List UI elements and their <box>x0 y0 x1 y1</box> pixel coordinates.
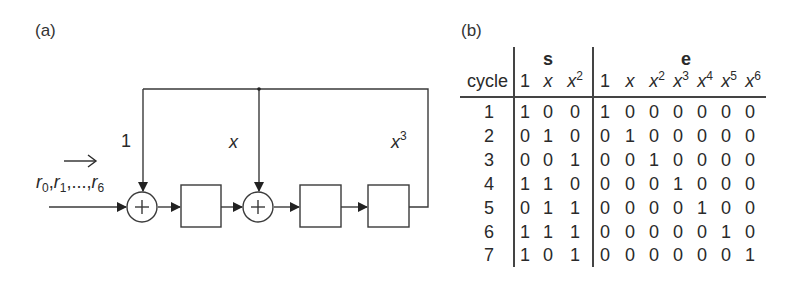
e-cell: 0 <box>721 174 731 194</box>
cycle-cell: 5 <box>484 198 494 218</box>
e-cell: 0 <box>625 174 635 194</box>
junction-dot <box>257 87 261 91</box>
cycle-cell: 2 <box>484 126 494 146</box>
s-cell: 1 <box>543 198 553 218</box>
s-cell: 1 <box>543 222 553 242</box>
s-cell: 1 <box>520 102 530 122</box>
feedback-line <box>143 89 428 207</box>
s-cell: 1 <box>570 222 580 242</box>
register-1 <box>181 185 221 227</box>
e-cell: 1 <box>600 102 610 122</box>
s-cell: 0 <box>570 102 580 122</box>
e-cell: 0 <box>673 126 683 146</box>
group-header-s: s <box>543 49 553 69</box>
group-header-e: e <box>681 49 691 69</box>
e-cell: 0 <box>600 126 610 146</box>
e-cell: 0 <box>625 198 635 218</box>
e-cell: 0 <box>625 102 635 122</box>
column-header-e-6: x6 <box>745 71 761 91</box>
cycle-cell: 7 <box>484 245 494 265</box>
e-cell: 0 <box>745 102 755 122</box>
cycle-cell: 1 <box>484 102 494 122</box>
s-cell: 1 <box>543 174 553 194</box>
e-cell: 1 <box>745 245 755 265</box>
e-cell: 0 <box>721 245 731 265</box>
tap-label-1: 1 <box>121 131 131 151</box>
e-cell: 0 <box>745 126 755 146</box>
e-cell: 0 <box>600 245 610 265</box>
tap-label-x3: x3 <box>390 129 407 152</box>
e-cell: 0 <box>600 150 610 170</box>
s-cell: 0 <box>520 126 530 146</box>
e-cell: 0 <box>673 102 683 122</box>
e-cell: 0 <box>625 245 635 265</box>
e-cell: 0 <box>673 222 683 242</box>
column-header-s-1: x <box>544 71 553 91</box>
e-cell: 0 <box>745 198 755 218</box>
e-cell: 0 <box>625 222 635 242</box>
cycle-cell: 3 <box>484 150 494 170</box>
s-cell: 1 <box>520 222 530 242</box>
s-cell: 0 <box>543 150 553 170</box>
e-cell: 0 <box>697 150 707 170</box>
e-cell: 0 <box>721 126 731 146</box>
column-header-e-4: x4 <box>697 71 713 91</box>
s-cell: 1 <box>570 198 580 218</box>
column-header-e-5: x5 <box>721 71 737 91</box>
e-cell: 1 <box>721 222 731 242</box>
table-divider-s <box>513 47 515 267</box>
s-cell: 1 <box>543 126 553 146</box>
e-cell: 0 <box>697 245 707 265</box>
column-header-e-2: x2 <box>649 71 665 91</box>
e-cell: 0 <box>745 174 755 194</box>
e-cell: 0 <box>721 102 731 122</box>
e-cell: 0 <box>600 222 610 242</box>
e-cell: 0 <box>600 174 610 194</box>
e-cell: 1 <box>697 198 707 218</box>
e-cell: 0 <box>721 150 731 170</box>
e-cell: 0 <box>673 198 683 218</box>
e-cell: 0 <box>697 174 707 194</box>
s-cell: 1 <box>570 150 580 170</box>
s-cell: 0 <box>543 245 553 265</box>
e-cell: 0 <box>649 198 659 218</box>
e-cell: 1 <box>625 126 635 146</box>
e-cell: 0 <box>697 222 707 242</box>
column-header-e-1: x <box>626 71 635 91</box>
column-header-e-3: x3 <box>673 71 689 91</box>
s-cell: 0 <box>520 150 530 170</box>
tap-label-x: x <box>228 132 239 152</box>
e-cell: 0 <box>649 126 659 146</box>
shift-register-circuit: 1 x x3 r0,r1,...,r6 <box>0 0 450 281</box>
column-header-s-2: x2 <box>567 71 583 91</box>
e-cell: 0 <box>745 222 755 242</box>
e-cell: 0 <box>673 150 683 170</box>
s-cell: 0 <box>520 198 530 218</box>
e-cell: 0 <box>649 245 659 265</box>
e-cell: 0 <box>649 174 659 194</box>
e-cell: 0 <box>649 102 659 122</box>
e-cell: 0 <box>625 150 635 170</box>
panel-b-label: (b) <box>461 21 482 41</box>
register-3 <box>368 185 409 227</box>
e-cell: 0 <box>697 102 707 122</box>
table-header-rule <box>460 96 766 98</box>
s-cell: 0 <box>570 126 580 146</box>
e-cell: 0 <box>697 126 707 146</box>
input-sequence-label: r0,r1,...,r6 <box>36 172 104 195</box>
e-cell: 0 <box>745 150 755 170</box>
register-2 <box>300 185 341 227</box>
e-cell: 0 <box>721 198 731 218</box>
e-cell: 1 <box>673 174 683 194</box>
e-cell: 0 <box>673 245 683 265</box>
column-header-e-0: 1 <box>600 71 610 91</box>
s-cell: 0 <box>570 174 580 194</box>
s-cell: 0 <box>543 102 553 122</box>
row-header-cycle: cycle <box>467 71 508 91</box>
e-cell: 1 <box>649 150 659 170</box>
e-cell: 0 <box>649 222 659 242</box>
s-cell: 1 <box>570 245 580 265</box>
cycle-cell: 6 <box>484 222 494 242</box>
cycle-cell: 4 <box>484 174 494 194</box>
column-header-s-0: 1 <box>520 71 530 91</box>
